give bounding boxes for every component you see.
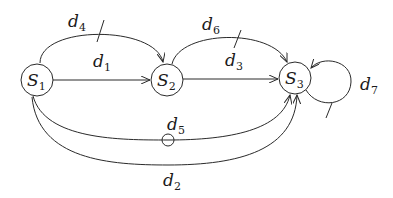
label-d5: d5 <box>167 114 185 137</box>
tick-mark-d4 <box>97 20 104 42</box>
node-s1: S1 <box>21 64 53 96</box>
edge-d5 <box>33 95 290 140</box>
label-d6: d6 <box>202 14 220 37</box>
label-d2: d2 <box>163 170 181 193</box>
state-diagram: S1 S2 S3 d4 d1 d6 d3 d7 d5 d2 <box>0 0 393 198</box>
node-s2: S2 <box>151 64 183 96</box>
label-d7: d7 <box>360 74 378 97</box>
tick-mark-d7 <box>326 103 332 118</box>
label-d1: d1 <box>93 51 111 74</box>
tick-mark-d6 <box>234 30 241 48</box>
label-d3: d3 <box>225 50 243 73</box>
node-s3: S3 <box>279 62 311 94</box>
label-d4: d4 <box>68 11 86 34</box>
edge-d7 <box>306 61 351 103</box>
